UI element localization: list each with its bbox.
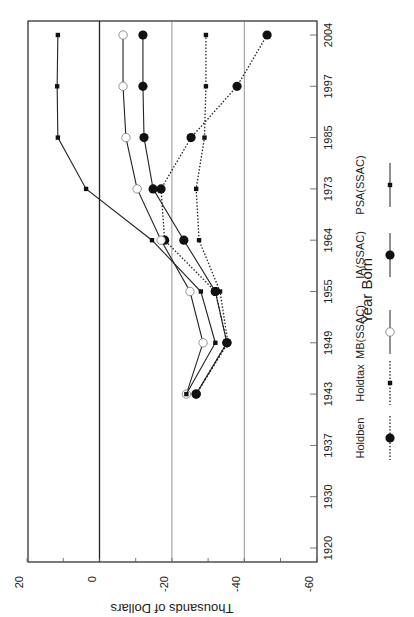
value-tick-label: 0	[86, 576, 98, 582]
square-marker	[204, 33, 208, 37]
open-circle-marker	[386, 328, 394, 336]
gridlines	[100, 21, 245, 562]
open-circle-marker	[133, 185, 141, 193]
filled-circle-marker	[156, 184, 165, 193]
filled-circle-marker	[232, 82, 241, 91]
square-marker	[55, 84, 59, 88]
square-marker	[388, 183, 392, 187]
filled-circle-marker	[186, 133, 195, 142]
filled-circle-marker	[385, 433, 394, 442]
year-tick-label: 1920	[322, 536, 334, 560]
open-circle-marker	[122, 133, 130, 141]
square-marker	[150, 238, 154, 242]
series-mb-ssac	[119, 31, 207, 399]
filled-circle-marker	[138, 30, 147, 39]
open-circle-marker	[119, 82, 127, 90]
filled-circle-marker	[148, 184, 157, 193]
value-axis-title: Thousands of Dollars	[110, 601, 233, 616]
open-circle-marker	[199, 339, 207, 347]
legend-item: PSA(SSAC)	[354, 155, 392, 214]
square-marker	[199, 289, 203, 293]
filled-circle-marker	[222, 338, 231, 347]
open-circle-marker	[186, 287, 194, 295]
filled-circle-marker	[138, 82, 147, 91]
year-tick-label: 1930	[322, 484, 334, 508]
square-marker	[197, 238, 201, 242]
square-marker	[184, 392, 188, 396]
filled-circle-marker	[211, 287, 220, 296]
legend-label: PSA(SSAC)	[354, 155, 366, 214]
square-marker	[204, 84, 208, 88]
legend-label: IA(SSAC)	[354, 231, 366, 279]
square-marker	[388, 381, 392, 385]
year-tick-label: 1943	[322, 382, 334, 406]
year-tick-label: 1937	[322, 433, 334, 457]
year-tick-label: 1955	[322, 279, 334, 303]
series-layer	[55, 30, 272, 398]
filled-circle-marker	[139, 133, 148, 142]
value-tick-label: 20	[13, 576, 25, 588]
legend-label: Holdben	[354, 418, 366, 459]
legend-item: Holdben	[354, 416, 395, 460]
year-tick-label: 1964	[322, 228, 334, 252]
square-marker	[84, 187, 88, 191]
filled-circle-marker	[192, 390, 201, 399]
open-circle-marker	[157, 236, 165, 244]
square-marker	[194, 187, 198, 191]
filled-circle-marker	[179, 236, 188, 245]
year-tick-label: 1997	[322, 74, 334, 98]
legend-item: Holdtax	[354, 361, 392, 405]
year-tick-label: 2004	[322, 23, 334, 47]
value-tick-label: -40	[230, 576, 242, 592]
filled-circle-marker	[385, 250, 394, 259]
filled-circle-marker	[263, 30, 272, 39]
value-tick-label: -60	[303, 576, 315, 592]
year-tick-label: 1949	[322, 331, 334, 355]
open-circle-marker	[119, 31, 127, 39]
year-tick-label: 1973	[322, 177, 334, 201]
square-marker	[56, 135, 60, 139]
square-marker	[213, 341, 217, 345]
rotated-line-chart: 200-20-40-60 192019301937194319491955196…	[0, 0, 414, 617]
series-psa-ssac	[55, 33, 218, 397]
square-marker	[56, 33, 60, 37]
legend-label: Holdtax	[354, 364, 366, 402]
plot-frame	[28, 21, 317, 562]
value-axis-ticks: 200-20-40-60	[13, 558, 317, 592]
year-tick-label: 1985	[322, 125, 334, 149]
series-ia-ssac	[138, 30, 231, 398]
value-tick-label: -20	[158, 576, 170, 592]
legend-label: MB(SSAC)	[354, 305, 366, 359]
year-axis-ticks: 1920193019371943194919551964197319851997…	[310, 23, 334, 560]
square-marker	[202, 135, 206, 139]
